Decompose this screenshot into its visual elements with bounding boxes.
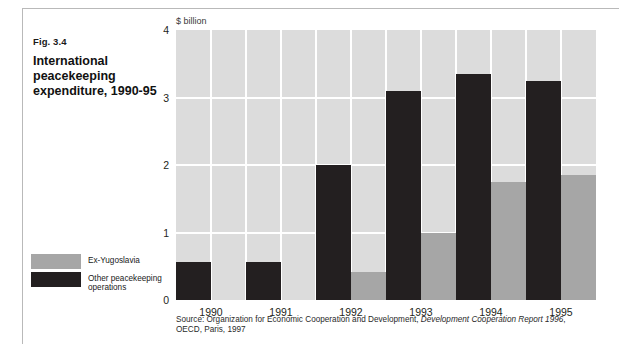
source-suffix: , (563, 315, 565, 324)
figure-number: Fig. 3.4 (33, 36, 158, 47)
bar-1993-other (386, 91, 421, 300)
legend-item: Other peacekeeping operations (31, 272, 171, 293)
legend-swatch-other-peacekeeping (31, 272, 81, 287)
bar-1995-ex-yugoslavia (561, 175, 596, 300)
y-axis-label: $ billion (176, 16, 207, 26)
y-tick-label: 3 (163, 92, 169, 104)
bar-1992-other (316, 165, 351, 300)
bar-1992-ex-yugoslavia (351, 272, 386, 300)
y-tick-label: 0 (163, 294, 169, 306)
figure-caption: Fig. 3.4 International peacekeeping expe… (33, 36, 158, 100)
bar-1995-other (526, 81, 561, 300)
page-title: International peacekeeping expenditure, … (33, 54, 158, 100)
bar-1994-ex-yugoslavia (491, 182, 526, 300)
bar-1994-other (456, 74, 491, 300)
y-tick-label: 1 (163, 227, 169, 239)
source-title-italic: Development Cooperation Report 1996 (421, 315, 563, 324)
legend-swatch-ex-yugoslavia (31, 254, 81, 269)
page-top-rule (22, 8, 619, 9)
bar-1990-other (176, 262, 211, 300)
legend-item-label: Other peacekeeping operations (88, 272, 162, 293)
y-tick-label: 4 (163, 24, 169, 36)
source-prefix: Source: Organization for Economic Cooper… (176, 315, 421, 324)
source-note: Source: Organization for Economic Cooper… (176, 315, 608, 334)
chart-plot-area: $ billion 01234 199019911992199319941995 (176, 30, 596, 300)
bar-1993-ex-yugoslavia (421, 233, 456, 301)
legend-item-label: Ex-Yugoslavia (88, 254, 140, 265)
chart-legend: Ex-YugoslaviaOther peacekeeping operatio… (31, 254, 171, 296)
bar-1991-other (246, 262, 281, 300)
source-line2: OECD, Paris, 1997 (176, 325, 246, 334)
legend-item: Ex-Yugoslavia (31, 254, 171, 269)
page-left-rule (22, 8, 23, 344)
y-tick-label: 2 (163, 159, 169, 171)
